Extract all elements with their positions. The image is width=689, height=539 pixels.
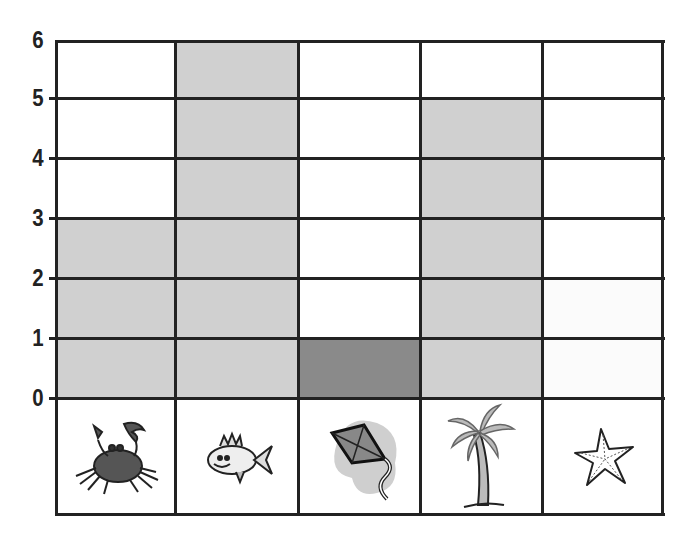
grid-line-5 <box>55 97 665 100</box>
bar-kite <box>299 340 421 400</box>
y-label-1: 1 <box>30 326 47 350</box>
grid-line-6 <box>55 40 665 43</box>
grid-line-3 <box>55 217 665 220</box>
grid-line-2 <box>55 277 665 280</box>
crab-icon <box>57 400 178 515</box>
y-label-4: 4 <box>30 146 47 170</box>
y-label-0: 0 <box>30 386 47 410</box>
bar-starfish-faint <box>543 280 663 400</box>
bar-palm-tree <box>421 100 543 400</box>
y-label-6: 6 <box>30 28 47 52</box>
y-label-2: 2 <box>30 266 47 290</box>
grid-line-1 <box>55 337 665 340</box>
kite-icon <box>301 400 422 515</box>
fish-icon <box>179 400 300 515</box>
pictograph-bar-chart <box>55 40 663 515</box>
grid-line-4 <box>55 157 665 160</box>
palm-tree-icon <box>423 400 544 515</box>
bar-crab <box>55 220 176 400</box>
starfish-icon <box>545 400 666 515</box>
y-label-5: 5 <box>30 86 47 110</box>
y-label-3: 3 <box>30 206 47 230</box>
bar-fish <box>176 40 299 400</box>
